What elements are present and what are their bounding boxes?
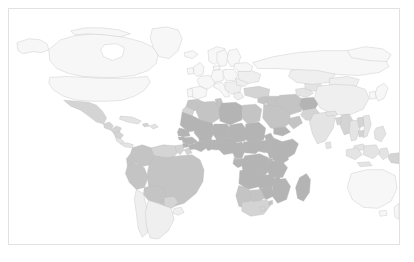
region-sierra-leone[interactable] [182,143,189,148]
region-korea[interactable] [369,91,376,99]
region-egypt[interactable] [242,104,262,124]
region-sri-lanka[interactable] [325,142,331,149]
region-portugal[interactable] [187,88,193,97]
region-nepal[interactable] [325,111,337,116]
region-gambia[interactable] [178,134,185,136]
world-map-svg[interactable] [9,9,399,244]
world-map-figure [0,0,414,262]
region-indonesia-java[interactable] [357,162,372,167]
region-tasmania[interactable] [379,210,387,216]
region-ireland[interactable] [187,68,194,75]
region-eswatini[interactable] [269,200,273,205]
region-lesotho[interactable] [260,206,266,211]
map-frame [8,8,400,245]
